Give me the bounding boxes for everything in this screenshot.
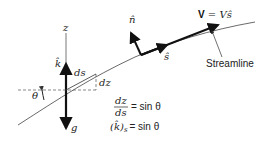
ds-label: ds (74, 67, 86, 78)
n-hat-label: n̂ (129, 14, 135, 25)
eq2: (k̂)s= sin θ (110, 120, 160, 134)
streamline-label: Streamline (206, 58, 254, 69)
s-hat-label: ŝ (164, 51, 169, 62)
theta-arc (42, 90, 44, 100)
streamline-diagram: z k̂ g θ ds dz n̂ ŝ V = Vŝ Streamline dz… (0, 0, 268, 141)
eq1-denominator: ds (115, 107, 127, 118)
z-label: z (62, 22, 69, 33)
k-hat-label: k̂ (55, 57, 61, 69)
n-hat-arrow (131, 33, 141, 55)
streamline-pointer (212, 31, 222, 57)
g-label: g (71, 122, 77, 133)
diagram-svg: z k̂ g θ ds dz n̂ ŝ V = Vŝ Streamline dz… (0, 0, 268, 141)
theta-label: θ (32, 90, 38, 101)
eq1-numerator: dz (115, 95, 127, 106)
dz-label: dz (99, 77, 111, 88)
velocity-label: V = Vŝ (198, 9, 232, 20)
eq1-rhs: = sin θ (131, 101, 161, 112)
